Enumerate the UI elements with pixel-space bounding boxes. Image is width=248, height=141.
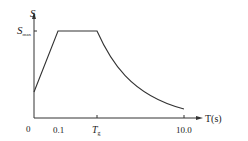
response-spectrum-chart: S Smax 0 0.1 Tg 10.0 T(s) (0, 0, 248, 141)
tick-label-tg: Tg (92, 124, 101, 136)
tick-label-0-1: 0.1 (53, 125, 64, 135)
spectrum-curve (34, 31, 184, 109)
x-axis-label: T(s) (205, 113, 222, 125)
y-axis-label: S (30, 7, 36, 19)
smax-label: Smax (17, 24, 32, 37)
tick-label-0: 0 (26, 124, 31, 134)
x-axis-arrow-icon (196, 116, 203, 120)
tick-label-10: 10.0 (176, 125, 192, 135)
